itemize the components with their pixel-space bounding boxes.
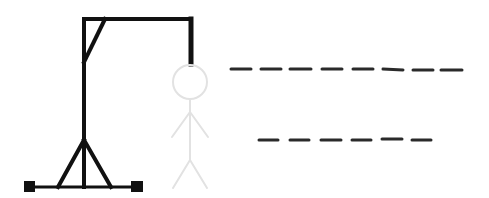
hangman-board <box>0 0 489 198</box>
hangman-canvas <box>0 0 489 198</box>
hangman-figure <box>172 65 208 188</box>
word-2-blanks <box>259 139 431 140</box>
word-1-blanks <box>231 69 462 70</box>
gallows-leg-left <box>58 140 84 187</box>
gallows-foot-right <box>131 181 143 192</box>
gallows-foot-left <box>24 181 35 192</box>
gallows <box>24 19 191 192</box>
figure-arm-right <box>190 112 208 137</box>
gallows-brace <box>84 19 105 62</box>
figure-arm-left <box>172 112 190 137</box>
gallows-leg-right <box>84 140 111 187</box>
letter-blank <box>383 69 403 70</box>
figure-leg-right <box>190 160 207 188</box>
figure-leg-left <box>173 160 190 188</box>
figure-head <box>173 65 207 99</box>
